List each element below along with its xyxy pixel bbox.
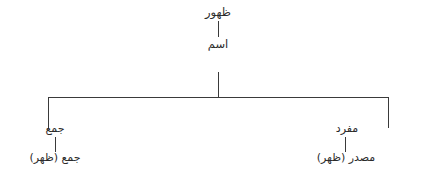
left-branch-example-label: جمع (ظهر)	[4, 152, 106, 164]
connector-bar-to-right-branch	[388, 97, 389, 128]
root-node-label: ظهور	[178, 6, 258, 18]
left-branch-label: جمع	[20, 123, 90, 135]
right-branch-label: مفرد	[312, 123, 382, 135]
connector-right-branch-to-example	[345, 137, 346, 152]
branch-horizontal-bar	[48, 97, 389, 98]
connector-left-branch-to-example	[55, 137, 56, 152]
right-branch-example-label: مصدر (ظهر)	[288, 152, 404, 164]
connector-root-to-pos	[218, 21, 219, 37]
connector-pos-to-branchbar	[218, 72, 219, 98]
diagram-canvas: ظهور اسم جمع جمع (ظهر) مفرد مصدر (ظهر)	[0, 0, 422, 180]
part-of-speech-node-label: اسم	[178, 38, 258, 50]
